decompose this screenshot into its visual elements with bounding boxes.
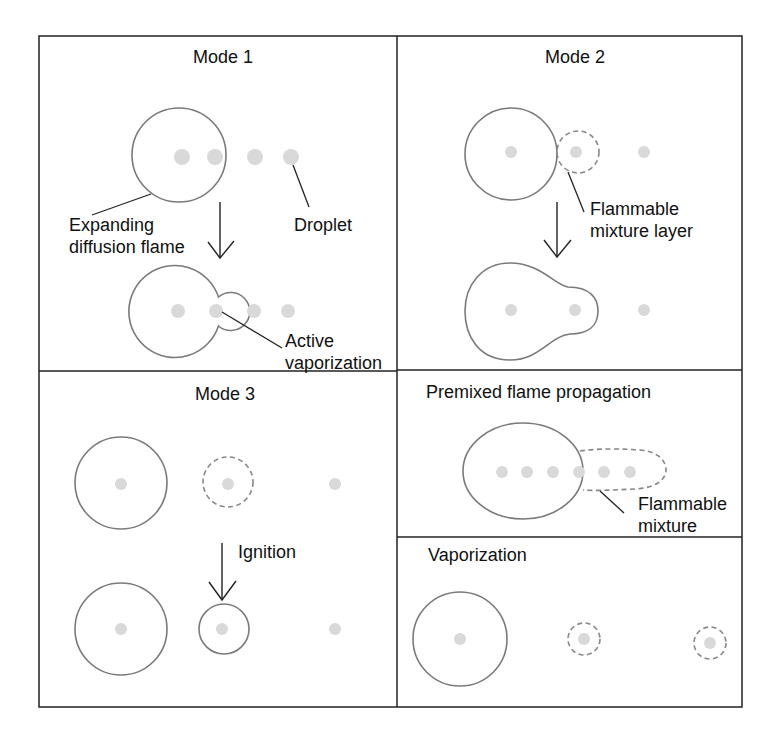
droplet [638, 304, 650, 316]
panel-title: Vaporization [428, 545, 527, 565]
expanding-flame-label-line2: diffusion flame [69, 237, 185, 257]
droplet [578, 633, 590, 645]
flammable-mixture-label-line1: Flammable [638, 494, 727, 514]
droplet [115, 623, 127, 635]
panel-mode-1: Mode 1 Expanding diffusion flame Droplet… [69, 47, 382, 373]
droplet [598, 466, 610, 478]
droplet [573, 466, 585, 478]
droplet [247, 304, 261, 318]
flame-with-vaporization-bulge [129, 266, 250, 358]
down-arrow-icon [209, 543, 236, 600]
droplet [505, 146, 517, 158]
droplet [570, 146, 582, 158]
panel-title: Mode 3 [195, 384, 255, 404]
panel-premixed-flame-propagation: Premixed flame propagation Flammable mix… [426, 382, 727, 536]
flammable-mixture-region [580, 449, 666, 490]
ignition-label: Ignition [238, 542, 296, 562]
panel-mode-3: Mode 3 Ignition [75, 384, 341, 675]
flammable-mixture-leader-line [600, 491, 624, 513]
panel-mode-2: Mode 2 Flammable mixture layer [465, 47, 693, 360]
droplet [329, 623, 341, 635]
droplet [222, 478, 234, 490]
droplet [207, 149, 223, 165]
panel-title: Mode 1 [193, 47, 253, 67]
droplet [496, 466, 508, 478]
panel-vaporization: Vaporization [413, 545, 726, 686]
down-arrow-icon [544, 202, 571, 257]
droplet-leader-line [293, 165, 309, 207]
droplet [171, 304, 185, 318]
droplet [638, 146, 650, 158]
droplet [624, 466, 636, 478]
droplet [329, 478, 341, 490]
droplet [216, 623, 228, 635]
droplet [247, 149, 263, 165]
active-vaporization-label-line2: vaporization [285, 353, 382, 373]
droplet [454, 633, 466, 645]
droplet [283, 149, 299, 165]
flame-leader-line [92, 194, 151, 215]
droplet [174, 149, 190, 165]
droplet [209, 304, 223, 318]
mixture-layer-leader-line [568, 172, 584, 212]
mixture-layer-label-line2: mixture layer [590, 221, 693, 241]
mixture-layer-label-line1: Flammable [590, 199, 679, 219]
droplet [115, 478, 127, 490]
panel-title: Premixed flame propagation [426, 382, 651, 402]
down-arrow-icon [208, 202, 234, 258]
droplet [547, 466, 559, 478]
flammable-mixture-label-line2: mixture [638, 516, 697, 536]
figure-frame [39, 36, 742, 707]
droplet [281, 304, 295, 318]
droplet-label: Droplet [294, 215, 352, 235]
droplet [505, 304, 517, 316]
panel-title: Mode 2 [545, 47, 605, 67]
droplet [704, 637, 716, 649]
expanding-flame-label-line1: Expanding [69, 215, 154, 235]
droplet-combustion-modes-figure: Mode 1 Expanding diffusion flame Droplet… [0, 0, 779, 746]
droplet [521, 466, 533, 478]
droplet [569, 304, 581, 316]
active-vaporization-label-line1: Active [285, 331, 334, 351]
